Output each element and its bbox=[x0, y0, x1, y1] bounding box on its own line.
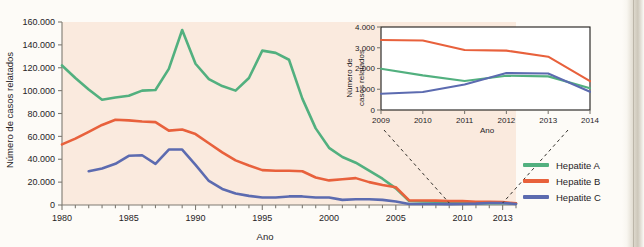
legend-color-swatch bbox=[523, 179, 549, 183]
inset-x-tick-label: 2013 bbox=[539, 116, 557, 125]
y-tick-label: 60.000 bbox=[27, 132, 55, 142]
inset-x-tick-label: 2010 bbox=[414, 116, 432, 125]
inset-x-tick-label: 2009 bbox=[372, 116, 390, 125]
x-tick-label: 1990 bbox=[186, 213, 206, 223]
inset-x-tick-label: 2012 bbox=[498, 116, 516, 125]
inset-x-tick-label: 2011 bbox=[456, 116, 474, 125]
x-tick-label: 1985 bbox=[119, 213, 139, 223]
legend-item[interactable]: Hepatite C bbox=[523, 189, 631, 205]
legend-item-label: Hepatite B bbox=[556, 176, 600, 187]
legend-color-swatch bbox=[523, 163, 549, 167]
hepatitis-cases-chart: 020.00040.00060.00080.000100.000120.0001… bbox=[0, 0, 626, 247]
inset-y-axis-title-line1: Número de bbox=[345, 58, 354, 98]
legend-item[interactable]: Hepatite B bbox=[523, 173, 631, 189]
legend-item[interactable]: Hepatite A bbox=[523, 157, 631, 173]
main-y-tick-labels: 020.00040.00060.00080.000100.000120.0001… bbox=[22, 17, 55, 210]
inset-x-axis-title: Ano bbox=[480, 126, 495, 135]
legend-item-label: Hepatite C bbox=[556, 192, 601, 203]
main-x-tick-labels: 19801985199019952000200520102013 bbox=[52, 213, 513, 223]
legend-item-label: Hepatite A bbox=[556, 160, 600, 171]
inset-y-tick-label: 0 bbox=[371, 106, 376, 115]
x-tick-label: 2010 bbox=[453, 213, 473, 223]
legend-color-swatch bbox=[523, 195, 549, 199]
main-y-axis-title: Número de casos relatados bbox=[4, 52, 15, 168]
inset-y-axis-title-line2: casos relatados bbox=[357, 50, 366, 106]
x-tick-label: 2005 bbox=[386, 213, 406, 223]
y-tick-label: 20.000 bbox=[27, 177, 55, 187]
x-tick-label: 1980 bbox=[52, 213, 72, 223]
main-x-tick-marks bbox=[62, 205, 516, 210]
x-tick-label: 2013 bbox=[493, 213, 513, 223]
main-y-tick-marks bbox=[58, 22, 62, 205]
y-tick-label: 160.000 bbox=[22, 17, 55, 27]
inset-chart: 01.0002.0003.0004.000 200920102011201220… bbox=[345, 23, 599, 135]
y-tick-label: 0 bbox=[50, 200, 55, 210]
y-tick-label: 100.000 bbox=[22, 86, 55, 96]
x-tick-label: 2000 bbox=[319, 213, 339, 223]
main-x-axis-title: Ano bbox=[257, 231, 274, 242]
x-tick-label: 1995 bbox=[252, 213, 272, 223]
y-tick-label: 80.000 bbox=[27, 109, 55, 119]
page-edge-line bbox=[633, 0, 634, 247]
y-tick-label: 140.000 bbox=[22, 40, 55, 50]
inset-x-tick-label: 2014 bbox=[581, 116, 599, 125]
chart-legend: Hepatite AHepatite BHepatite C bbox=[523, 157, 631, 205]
inset-y-tick-label: 4.000 bbox=[355, 23, 376, 32]
figure-container: 020.00040.00060.00080.000100.000120.0001… bbox=[0, 0, 644, 247]
y-tick-label: 40.000 bbox=[27, 154, 55, 164]
y-tick-label: 120.000 bbox=[22, 63, 55, 73]
